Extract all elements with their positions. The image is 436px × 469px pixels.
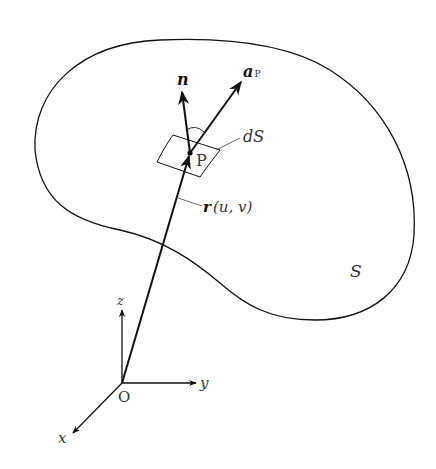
normal-label: n	[177, 70, 189, 89]
point-label-P: P	[196, 151, 207, 170]
a-P-label: aP	[243, 62, 260, 81]
surface-label-S: S	[350, 261, 362, 281]
position-vector-r	[122, 156, 189, 383]
y-axis-label: y	[199, 374, 209, 392]
dS-label: dS	[243, 127, 264, 146]
dS-leader	[216, 138, 240, 150]
x-axis-label: x	[58, 429, 67, 447]
x-axis	[73, 383, 122, 433]
angle-arc	[186, 127, 204, 132]
z-axis-label: z	[116, 293, 124, 308]
point-P-dot	[187, 150, 192, 155]
surface-integral-diagram: n aP dS P r(u, v) S z y x O	[0, 0, 436, 469]
r-leader	[178, 198, 202, 206]
origin-label: O	[118, 388, 130, 406]
vector-a-P	[190, 82, 241, 153]
position-label: r(u, v)	[203, 198, 252, 216]
normal-vector-n	[182, 92, 190, 153]
